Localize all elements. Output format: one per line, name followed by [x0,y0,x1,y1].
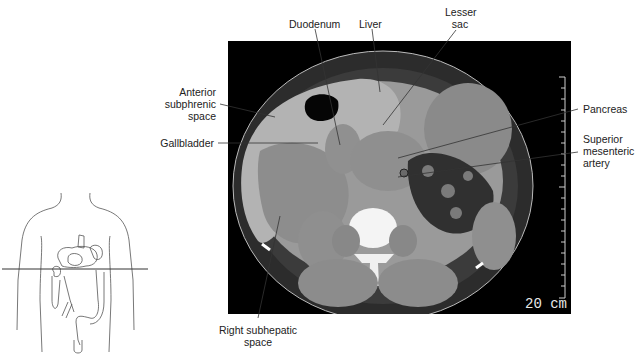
label-superior-mesenteric-artery: Superior mesenteric artery [583,133,634,169]
label-duodenum: Duodenum [289,18,340,30]
label-lesser-sac-line2: sac [445,18,475,30]
label-lesser-sac-line1: Lesser [445,6,475,18]
label-anterior-line1: Anterior [160,86,216,98]
label-liver: Liver [359,18,382,30]
label-rsh-line2: space [213,336,303,348]
label-anterior-line2: subphrenic [160,98,216,110]
scale-ruler [559,77,565,298]
label-gallbladder: Gallbladder [150,137,214,149]
label-rsh-line1: Right subhepatic [213,324,303,336]
label-anterior-subphrenic-space: Anterior subphrenic space [160,86,216,122]
scale-label: 20 cm [525,296,567,312]
label-lesser-sac: Lesser sac [445,6,475,30]
ct-scan-image: 20 cm [228,41,571,314]
label-right-subhepatic-space: Right subhepatic space [213,324,303,348]
label-pancreas: Pancreas [583,103,627,115]
label-sma-line1: Superior [583,133,634,145]
label-sma-line2: mesenteric [583,145,634,157]
label-sma-line3: artery [583,157,634,169]
label-anterior-line3: space [160,110,216,122]
